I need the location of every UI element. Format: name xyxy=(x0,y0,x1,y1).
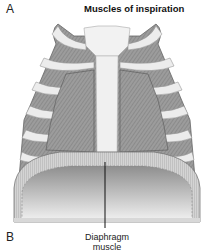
diaphragm xyxy=(14,152,200,222)
caption-line-1: Diaphragm xyxy=(74,232,140,242)
ribcage-diagram xyxy=(0,0,214,252)
panel-label-b: B xyxy=(6,230,14,244)
diaphragm-caption: Diaphragm muscle xyxy=(74,232,140,252)
caption-line-2: muscle xyxy=(74,242,140,252)
